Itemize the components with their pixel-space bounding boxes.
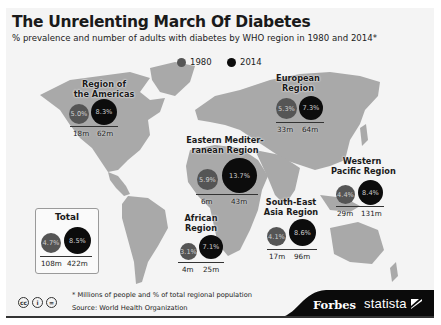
count-1980: 17m bbox=[269, 252, 285, 261]
bubble-1980: 5.3% bbox=[276, 98, 297, 119]
legend-label-1980: 1980 bbox=[190, 57, 212, 67]
baseline-divider bbox=[336, 206, 384, 207]
bubble-2014: 8.3% bbox=[91, 99, 117, 125]
bubble-2014: 13.7% bbox=[222, 158, 257, 193]
count-1980: 108m bbox=[41, 259, 62, 268]
bubble-1980: 5.9% bbox=[197, 169, 218, 190]
region-name-line2: Region bbox=[268, 84, 328, 94]
baseline-divider bbox=[40, 256, 92, 257]
attribution-icon[interactable]: i bbox=[32, 297, 43, 308]
statista-logo[interactable]: statista bbox=[364, 296, 407, 311]
baseline-divider bbox=[178, 262, 224, 263]
page-title: The Unrelenting March Of Diabetes bbox=[12, 13, 310, 31]
bubble-1980: 4.7% bbox=[41, 233, 61, 253]
bubble-2014: 7.1% bbox=[199, 235, 223, 259]
footnote: * Millions of people and % of total regi… bbox=[72, 291, 252, 299]
page-subtitle: % prevalence and number of adults with d… bbox=[12, 33, 377, 43]
count-2014: 131m bbox=[361, 209, 382, 218]
source-text: Source: World Health Organization bbox=[72, 304, 187, 312]
legend-dot-2014-icon bbox=[227, 58, 236, 67]
count-2014: 62m bbox=[97, 129, 113, 138]
count-1980: 29m bbox=[337, 209, 353, 218]
baseline-divider bbox=[70, 126, 118, 127]
statista-mark-icon bbox=[411, 299, 422, 309]
count-2014: 64m bbox=[302, 125, 318, 134]
bubble-1980: 4.4% bbox=[336, 185, 355, 204]
baseline-divider bbox=[196, 194, 258, 195]
total-label: Total bbox=[35, 213, 99, 223]
bubble-1980: 3.1% bbox=[180, 243, 197, 260]
region-label: South-East Asia Region bbox=[263, 198, 319, 217]
count-1980: 4m bbox=[182, 265, 194, 274]
count-2014: 43m bbox=[231, 197, 247, 206]
legend-item-2014: 2014 bbox=[227, 57, 262, 67]
bubble-2014: 7.3% bbox=[299, 96, 323, 120]
no-derivatives-icon[interactable]: = bbox=[46, 297, 57, 308]
region-label: European Region bbox=[268, 74, 328, 93]
count-1980: 6m bbox=[201, 197, 213, 206]
region-name-line2: Asia Region bbox=[263, 208, 319, 218]
footer-divider bbox=[6, 316, 434, 318]
bubble-2014: 8.6% bbox=[289, 219, 316, 246]
count-1980: 18m bbox=[73, 129, 89, 138]
region-label: African Region bbox=[178, 214, 224, 233]
legend: 1980 2014 bbox=[0, 57, 441, 71]
region-label: Region of the Americas bbox=[68, 80, 140, 99]
count-2014: 25m bbox=[203, 265, 219, 274]
region-label: Western Pacific Region bbox=[331, 157, 393, 176]
region-name-line2: ranean Region bbox=[186, 146, 264, 156]
bubble-1980: 5.0% bbox=[69, 104, 89, 124]
region-label: Eastern Mediter- ranean Region bbox=[186, 136, 264, 155]
legend-dot-1980-icon bbox=[177, 58, 186, 67]
count-1980: 33m bbox=[277, 125, 293, 134]
forbes-logo[interactable]: Forbes bbox=[313, 298, 356, 312]
bubble-1980: 4.1% bbox=[267, 227, 286, 246]
baseline-divider bbox=[267, 249, 317, 250]
region-name-line2: Region bbox=[178, 224, 224, 234]
legend-item-1980: 1980 bbox=[177, 57, 212, 67]
region-name-line2: Pacific Region bbox=[331, 167, 393, 177]
legend-label-2014: 2014 bbox=[240, 57, 262, 67]
bubble-2014: 8.5% bbox=[64, 227, 91, 254]
region-name-line2: the Americas bbox=[68, 90, 140, 100]
bubble-2014: 8.4% bbox=[358, 180, 383, 205]
cc-icon[interactable]: cc bbox=[18, 297, 29, 308]
count-2014: 422m bbox=[67, 259, 88, 268]
count-2014: 96m bbox=[294, 252, 310, 261]
baseline-divider bbox=[276, 122, 324, 123]
